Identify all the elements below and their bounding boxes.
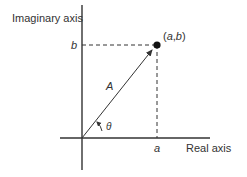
point-marker (153, 41, 160, 48)
b-tick-label: b (71, 39, 77, 51)
magnitude-label: A (105, 80, 113, 92)
imaginary-axis-label: Imaginary axis (12, 12, 83, 24)
real-axis-label: Real axis (186, 142, 232, 154)
angle-theta-label: θ (106, 121, 112, 132)
vector-a-arrow (82, 50, 152, 138)
a-tick-label: a (154, 142, 160, 154)
angle-arc-icon (97, 122, 102, 131)
point-label: (a,b) (163, 30, 186, 42)
complex-plane-diagram: Imaginary axis Real axis b a (a,b) A θ (0, 0, 247, 177)
